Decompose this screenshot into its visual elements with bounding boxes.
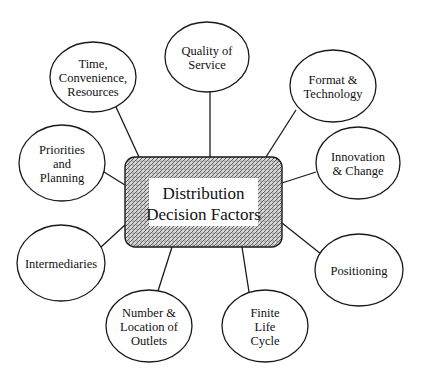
node-label-line: Outlets (131, 334, 167, 348)
connector-priorities-planning (104, 172, 125, 185)
node-positioning: Positioning (315, 234, 403, 306)
node-label-line: Positioning (331, 264, 389, 278)
center-node: Distribution Decision Factors (125, 157, 282, 247)
node-innovation-change: Innovation& Change (316, 127, 400, 199)
node-label-line: Quality of (181, 44, 233, 58)
connector-format-technology (266, 110, 296, 157)
node-label-line: Priorities (39, 143, 85, 157)
center-label-line-2: Decision Factors (146, 205, 261, 224)
node-label-line: Convenience, (59, 71, 127, 85)
node-label-line: Innovation (331, 150, 386, 164)
node-label-line: Intermediaries (25, 257, 97, 271)
node-time-convenience-resources: Time,Convenience,Resources (50, 42, 136, 112)
connector-intermediaries (101, 225, 125, 247)
connector-number-location-outlets (158, 247, 172, 291)
distribution-decision-factors-diagram: Distribution Decision Factors Time,Conve… (0, 0, 429, 382)
node-label-line: Service (188, 58, 226, 72)
node-label-line: and (53, 157, 72, 171)
node-quality-of-service: Quality ofService (165, 22, 249, 92)
center-label-line-1: Distribution (162, 184, 245, 203)
node-label-line: Number & (122, 306, 176, 320)
node-label-line: Planning (40, 171, 85, 185)
connector-time-convenience-resources (116, 107, 139, 157)
node-label-line: Life (255, 320, 276, 334)
node-label-line: Technology (304, 87, 364, 101)
node-finite-life-cycle: FiniteLifeCycle (222, 290, 308, 362)
node-label-line: Resources (67, 85, 119, 99)
node-priorities-planning: PrioritiesandPlanning (19, 125, 105, 201)
node-label-line: & Change (332, 164, 383, 178)
node-label-line: Location of (120, 320, 179, 334)
connector-finite-life-cycle (242, 247, 249, 292)
node-label-line: Finite (250, 306, 280, 320)
node-label-line: Cycle (250, 334, 280, 348)
connector-innovation-change (282, 172, 316, 183)
node-format-technology: Format &Technology (290, 50, 376, 122)
node-label-line: Format & (309, 73, 358, 87)
node-label-line: Time, (78, 57, 107, 71)
node-intermediaries: Intermediaries (17, 225, 105, 301)
connector-positioning (282, 223, 321, 254)
node-number-location-outlets: Number &Location ofOutlets (106, 290, 192, 362)
